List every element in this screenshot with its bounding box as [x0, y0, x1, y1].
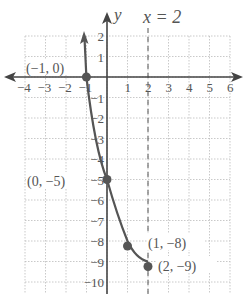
x-tick-label: 1 — [125, 80, 132, 95]
asymptote-label: x = 2 — [142, 7, 181, 27]
x-tick-label: 2 — [145, 80, 152, 95]
point-label: (0, −5) — [27, 174, 66, 190]
x-tick-label: 4 — [186, 80, 193, 95]
x-tick-label: 3 — [166, 80, 173, 95]
x-tick-label: 6 — [227, 80, 234, 95]
point-marker — [123, 242, 132, 251]
point-label: (1, −8) — [148, 236, 187, 252]
point-marker — [144, 262, 153, 271]
y-tick-label: −5 — [90, 173, 104, 188]
x-tick-label: −2 — [58, 80, 72, 95]
y-tick-label: −7 — [90, 214, 104, 229]
y-tick-label: −6 — [90, 193, 104, 208]
y-tick-label: −1 — [90, 91, 104, 106]
y-axis-label: y — [112, 5, 122, 24]
x-tick-label: −4 — [17, 80, 31, 95]
x-tick-label: 5 — [207, 80, 214, 95]
point-marker — [82, 73, 91, 82]
y-tick-label: −8 — [90, 234, 104, 249]
x-tick-label: −3 — [38, 80, 52, 95]
point-label: (−1, 0) — [26, 61, 65, 77]
y-tick-label: 2 — [98, 29, 105, 44]
y-tick-label: −9 — [90, 255, 104, 270]
point-marker — [103, 175, 112, 184]
y-tick-label: 1 — [98, 50, 105, 65]
chart: y x = 2 −4−3−2−112345621−1−2−3−4−5−6−7−8… — [0, 0, 245, 294]
point-label: (2, −9) — [158, 259, 197, 275]
y-tick-label: −10 — [84, 275, 104, 290]
